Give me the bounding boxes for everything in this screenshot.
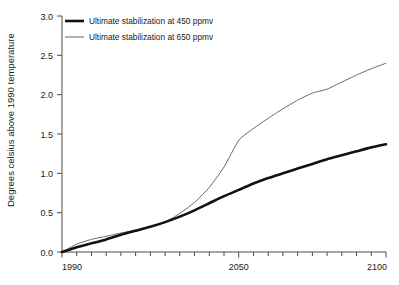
series-line-450ppmv (62, 144, 386, 252)
y-tick-label-1.5: 1.5 (40, 130, 53, 140)
y-tick-label-0.5: 0.5 (40, 208, 53, 218)
y-tick-label-0.0: 0.0 (40, 248, 53, 258)
chart-legend: Ultimate stabilization at 450 ppmv Ultim… (65, 16, 214, 42)
y-tick-label-1.0: 1.0 (40, 169, 53, 179)
legend-item-450ppmv[interactable]: Ultimate stabilization at 450 ppmv (65, 16, 214, 26)
y-axis-title: Degrees celsius above 1990 temperature (5, 33, 16, 207)
y-tick-label-3.0: 3.0 (40, 12, 53, 22)
y-axis-ticks (57, 16, 62, 252)
legend-label-650ppmv: Ultimate stabilization at 650 ppmv (89, 32, 214, 42)
x-tick-label-2050: 2050 (229, 262, 249, 272)
y-tick-label-2.0: 2.0 (40, 90, 53, 100)
y-tick-label-2.5: 2.5 (40, 51, 53, 61)
legend-label-450ppmv: Ultimate stabilization at 450 ppmv (89, 16, 214, 26)
x-axis-minor-ticks (77, 252, 372, 256)
x-tick-label-2100: 2100 (367, 262, 387, 272)
legend-item-650ppmv[interactable]: Ultimate stabilization at 650 ppmv (65, 32, 214, 42)
x-tick-label-1990: 1990 (62, 262, 82, 272)
chart-figure: 3.0 2.5 2.0 1.5 1.0 0.5 0.0 (0, 0, 399, 285)
chart-svg: 3.0 2.5 2.0 1.5 1.0 0.5 0.0 (0, 0, 399, 285)
